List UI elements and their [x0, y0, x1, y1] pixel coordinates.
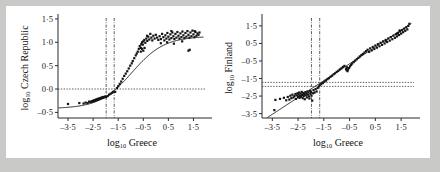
data-point [125, 73, 127, 75]
data-point [78, 102, 80, 104]
data-point [389, 40, 391, 42]
data-point [123, 75, 125, 77]
x-tick-label-0: –3·5 [264, 122, 281, 132]
data-point [368, 51, 370, 53]
scatter-plot-czech-republic: –3·5–2·5–1·5–0·50·51·5–0·50·00·51·01·5lo… [6, 6, 218, 158]
data-point [376, 47, 378, 49]
data-point [158, 35, 160, 37]
data-point [403, 28, 405, 30]
data-point [373, 48, 375, 50]
data-point [144, 42, 146, 44]
data-point [162, 36, 164, 38]
data-point [133, 57, 135, 59]
data-point [405, 26, 407, 28]
data-point [302, 97, 304, 99]
data-point [374, 44, 376, 46]
data-point [146, 40, 148, 42]
data-point [285, 99, 287, 101]
data-point [156, 37, 158, 39]
y-tick-label-2: –1·5 [240, 74, 257, 84]
data-point [153, 37, 155, 39]
y-axis-title-group: log10 Czech Republic [19, 25, 31, 111]
data-point [112, 91, 114, 93]
data-point [168, 38, 170, 40]
data-point [308, 95, 310, 97]
data-point [367, 49, 369, 51]
data-point [82, 102, 84, 104]
y-tick-label-4: 0·5 [246, 38, 257, 48]
x-axis-title-rest: Greece [126, 137, 157, 148]
y-axis-title-base: log [19, 98, 30, 111]
data-point [149, 33, 151, 35]
data-point [398, 29, 400, 31]
data-point [117, 85, 119, 87]
x-axis-title-rest: Greece [332, 137, 363, 148]
y-axis-title-base: log [223, 81, 234, 94]
data-point [293, 95, 295, 97]
scatter-plot-finland: –3·5–2·5–1·5–0·50·51·5–3·5–2·5–1·5–0·50·… [218, 6, 430, 158]
x-tick-label-2: –1·5 [315, 122, 332, 132]
data-point [274, 99, 276, 101]
data-point [346, 70, 348, 72]
x-axis-title-base: log [313, 137, 326, 148]
data-point [140, 51, 142, 53]
data-point [308, 97, 310, 99]
data-point [396, 35, 398, 37]
data-point [381, 44, 383, 46]
data-point [181, 40, 183, 42]
data-point [192, 33, 194, 35]
data-point [385, 40, 387, 42]
data-point [163, 39, 165, 41]
data-point [132, 60, 134, 62]
data-point [316, 90, 318, 92]
chart-left-czech-republic: –3·5–2·5–1·5–0·50·51·5–0·50·00·51·01·5lo… [6, 6, 218, 158]
x-tick-label-1: –2·5 [289, 122, 306, 132]
data-point [129, 65, 131, 67]
data-point [141, 48, 143, 50]
data-point [187, 34, 189, 36]
fit-curve [59, 37, 204, 108]
data-point [304, 98, 306, 100]
data-point [173, 43, 175, 45]
y-tick-label-2: 0·5 [42, 61, 53, 71]
data-point [179, 32, 181, 34]
data-point [273, 109, 275, 111]
data-point [384, 42, 386, 44]
data-point [120, 80, 122, 82]
data-point [295, 98, 297, 100]
data-point [408, 23, 410, 25]
data-point [404, 30, 406, 32]
data-point [401, 29, 403, 31]
data-point [400, 33, 402, 35]
x-axis-title-base: log [107, 137, 120, 148]
data-point [306, 96, 308, 98]
x-tick-label-3: –0·5 [341, 122, 358, 132]
data-point [152, 35, 154, 37]
data-point [190, 35, 192, 37]
data-point [151, 39, 153, 41]
data-point [160, 42, 162, 44]
data-point [186, 30, 188, 32]
data-point [396, 33, 398, 35]
data-point [310, 95, 312, 97]
x-axis-title: log10 Greece [313, 137, 363, 149]
x-axis-title: log10 Greece [107, 137, 157, 149]
data-point [283, 97, 285, 99]
data-point [164, 34, 166, 36]
data-point [175, 37, 177, 39]
data-point [379, 42, 381, 44]
y-axis-title: log10 Czech Republic [19, 25, 31, 111]
data-point [146, 35, 148, 37]
data-point [183, 37, 185, 39]
data-point [390, 36, 392, 38]
y-tick-label-0: –3·5 [240, 109, 257, 119]
data-point [167, 36, 169, 38]
data-point [189, 31, 191, 33]
data-point [143, 47, 145, 49]
data-point [119, 83, 121, 85]
data-point [291, 94, 293, 96]
y-axis-title-rest: Finland [223, 42, 234, 75]
data-point [176, 31, 178, 33]
data-point [174, 33, 176, 35]
y-tick-label-1: 0·0 [42, 84, 53, 94]
